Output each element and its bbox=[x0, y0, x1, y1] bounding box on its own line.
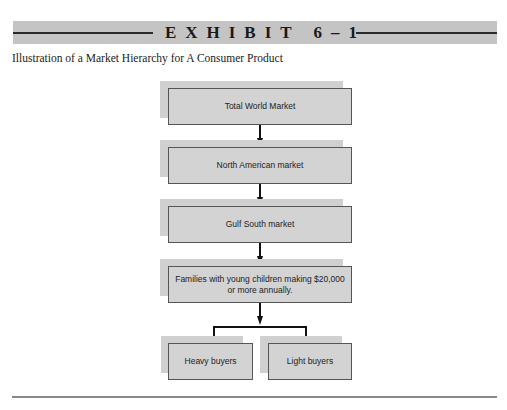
connector-line bbox=[259, 243, 261, 257]
arrow-down-icon bbox=[257, 316, 263, 325]
node-label: Gulf South market bbox=[226, 219, 295, 230]
branch-line bbox=[213, 326, 306, 328]
node-label: Light buyers bbox=[287, 356, 333, 367]
exhibit-banner: EXHIBIT 6–1 bbox=[13, 21, 497, 44]
banner-left-rule bbox=[13, 32, 153, 34]
node-north-american-market: North American market bbox=[168, 147, 352, 184]
node-label: North American market bbox=[217, 160, 304, 171]
node-light-buyers: Light buyers bbox=[268, 343, 352, 380]
node-label: Total World Market bbox=[225, 101, 296, 112]
exhibit-caption: Illustration of a Market Hierarchy for A… bbox=[12, 52, 283, 64]
node-target-families: Families with young children making $20,… bbox=[168, 266, 352, 303]
node-label: Heavy buyers bbox=[185, 356, 237, 367]
connector-line bbox=[259, 303, 261, 317]
bottom-rule bbox=[12, 396, 497, 398]
connector-line bbox=[259, 184, 261, 198]
node-heavy-buyers: Heavy buyers bbox=[168, 343, 253, 380]
node-gulf-south-market: Gulf South market bbox=[168, 206, 352, 243]
exhibit-title: EXHIBIT 6–1 bbox=[163, 21, 368, 44]
banner-right-rule bbox=[356, 32, 497, 34]
connector-line bbox=[259, 125, 261, 139]
node-label: Families with young children making $20,… bbox=[175, 274, 345, 296]
node-total-world-market: Total World Market bbox=[168, 88, 352, 125]
